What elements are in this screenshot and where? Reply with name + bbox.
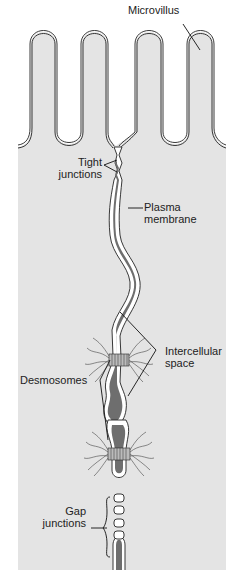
- label-intercellular-line2: space: [165, 357, 222, 369]
- label-tight-line1: Tight: [58, 156, 102, 168]
- label-plasma-line1: Plasma: [144, 201, 197, 213]
- cell-junction-diagram: [0, 0, 237, 586]
- label-intercellular-space: Intercellular space: [165, 345, 222, 369]
- label-gap-line1: Gap: [40, 505, 86, 517]
- cytoplasm-region: [18, 32, 226, 570]
- label-desmosomes: Desmosomes: [20, 374, 87, 386]
- label-plasma-membrane: Plasma membrane: [144, 201, 197, 225]
- label-gap-line2: junctions: [40, 517, 86, 529]
- label-tight-line2: junctions: [58, 168, 102, 180]
- label-plasma-line2: membrane: [144, 213, 197, 225]
- label-microvillus: Microvillus: [128, 4, 179, 16]
- label-intercellular-line1: Intercellular: [165, 345, 222, 357]
- label-tight-junctions: Tight junctions: [58, 156, 102, 180]
- label-gap-junctions: Gap junctions: [40, 505, 86, 529]
